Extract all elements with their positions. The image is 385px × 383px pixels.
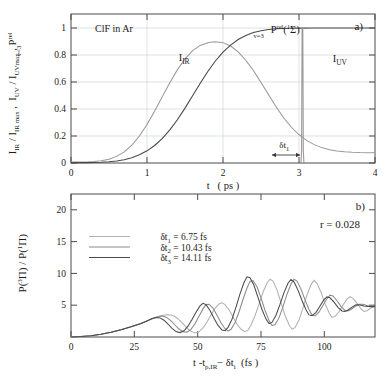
svg-text:IIR: IIR [155, 52, 208, 66]
panel-b-ylabel: P(3Π) / P(1Π) [16, 215, 29, 317]
panel-a-ytick-02: 0.2 [54, 131, 66, 141]
curve-ratio-dt3 [71, 277, 375, 337]
panel-b-xlabel: t -tp,IR− δti (fs ) [175, 357, 272, 371]
svg-text:IIR / IIR max , IUV / IUVmax: IIR / IIR max , IUV / IUVmax , Prel [6, 12, 21, 178]
panel-a-ytick-0: 0 [61, 158, 66, 168]
panel-a-xtick-0: 0 [69, 168, 74, 178]
legend-label-dt3: δt3 = 14.11 fs [139, 253, 228, 265]
panel-a-xtick-4: 4 [373, 168, 378, 178]
panel-b-legend: δt1 = 6.75 fs δt2 = 10.43 fs δt3 = 14.11… [89, 232, 228, 265]
label-population-sub: v=3 [254, 32, 264, 39]
panel-b-xtick-0: 0 [69, 342, 74, 352]
panel-a: 0 0.2 0.4 0.6 0.8 1 0 1 2 3 4 t ( ps ) I… [6, 12, 378, 192]
svg-text:δt1: δt1 [259, 140, 305, 153]
panel-a-tag: a) [354, 20, 363, 33]
panel-b-xtick-100: 100 [317, 342, 332, 352]
panel-a-ytick-04: 0.4 [54, 104, 66, 114]
figure-root: 0 0.2 0.4 0.6 0.8 1 0 1 2 3 4 t ( ps ) I… [0, 0, 385, 383]
panel-b-ytick-5: 5 [61, 300, 66, 310]
panel-a-system-label: ClF in Ar [95, 23, 133, 34]
panel-b-xtick-25: 25 [130, 342, 140, 352]
panel-b-ytick-20: 20 [57, 205, 67, 215]
delta-t1-annotation: δt1 [259, 140, 305, 157]
panel-b-ytick-15: 15 [57, 237, 67, 247]
panel-a-xtick-1: 1 [145, 168, 150, 178]
curve-ratio-dt2 [71, 279, 375, 337]
panel-b-ratio-label: r = 0.028 [320, 218, 361, 230]
svg-text:P(3Π) / P(1Π): P(3Π) / P(1Π) [16, 215, 29, 317]
panel-a-ylabel-sub: v=3 [15, 45, 23, 56]
label-ir: IIR [155, 52, 208, 66]
panel-a-xtick-2: 2 [221, 168, 226, 178]
panel-b-frame [71, 194, 375, 337]
panel-a-xlabel: t ( ps ) [207, 180, 240, 192]
panel-b-xtick-75: 75 [256, 342, 266, 352]
label-population: Prel(1Σ) v=3 [247, 23, 318, 40]
panel-a-ylabel: IIR / IIR max , IUV / IUVmax , Prel v=3 [6, 12, 23, 178]
panel-b-ytick-10: 10 [57, 269, 67, 279]
panel-b-x-ticks [71, 194, 324, 337]
panel-a-gridlines [71, 14, 375, 163]
panel-b-tag: b) [356, 200, 366, 213]
panel-a-ytick-06: 0.6 [54, 77, 66, 87]
panel-a-ytick-08: 0.8 [54, 50, 66, 60]
curve-ratio-dt1 [71, 279, 375, 337]
panel-b: 5 10 15 20 0 25 50 75 100 t -tp,IR− δti … [16, 194, 375, 371]
panel-a-xtick-3: 3 [297, 168, 302, 178]
panel-a-ytick-1: 1 [61, 23, 66, 33]
panel-b-xtick-50: 50 [193, 342, 203, 352]
